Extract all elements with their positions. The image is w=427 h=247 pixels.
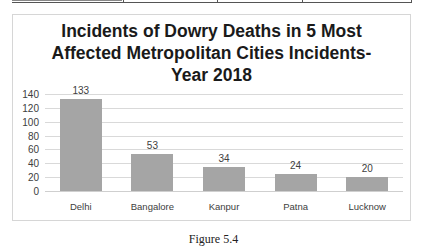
table-cell-divider bbox=[123, 0, 124, 2]
chart-title-line-1: Incidents of Dowry Deaths in 5 Most bbox=[12, 20, 411, 42]
table-border-fragment bbox=[12, 0, 412, 3]
figure-caption: Figure 5.4 bbox=[0, 232, 427, 247]
y-tick-label: 100 bbox=[9, 116, 39, 127]
chart-title-line-3: Year 2018 bbox=[12, 64, 411, 86]
table-cell-divider bbox=[302, 0, 303, 2]
y-tick-label: 20 bbox=[9, 172, 39, 183]
bar-patna bbox=[275, 174, 317, 191]
table-border-shade bbox=[12, 0, 122, 1]
data-label: 20 bbox=[347, 163, 387, 174]
y-tick-label: 60 bbox=[9, 144, 39, 155]
x-category-label: Kanpur bbox=[189, 201, 259, 212]
x-category-label: Lucknow bbox=[332, 201, 402, 212]
y-tick-label: 80 bbox=[9, 130, 39, 141]
bar-kanpur bbox=[203, 167, 245, 191]
y-tick-label: 120 bbox=[9, 102, 39, 113]
y-tick-label: 0 bbox=[9, 186, 39, 197]
bar-delhi bbox=[60, 99, 102, 191]
chart-title: Incidents of Dowry Deaths in 5 Most Affe… bbox=[12, 20, 411, 86]
x-category-label: Delhi bbox=[46, 201, 116, 212]
data-label: 133 bbox=[61, 85, 101, 96]
y-tick-label: 140 bbox=[9, 89, 39, 100]
chart-title-line-2: Affected Metropolitan Cities Incidents- bbox=[12, 42, 411, 64]
y-tick-label: 40 bbox=[9, 158, 39, 169]
data-label: 34 bbox=[204, 153, 244, 164]
x-axis-line bbox=[45, 191, 403, 192]
data-label: 24 bbox=[276, 160, 316, 171]
table-cell-divider bbox=[217, 0, 218, 2]
plot-area: 020406080100120140133Delhi53Bangalore34K… bbox=[45, 94, 403, 191]
table-cell-divider bbox=[411, 0, 412, 2]
bar-bangalore bbox=[131, 154, 173, 191]
x-category-label: Bangalore bbox=[117, 201, 187, 212]
bar-lucknow bbox=[346, 177, 388, 191]
data-label: 53 bbox=[132, 140, 172, 151]
x-category-label: Patna bbox=[261, 201, 331, 212]
